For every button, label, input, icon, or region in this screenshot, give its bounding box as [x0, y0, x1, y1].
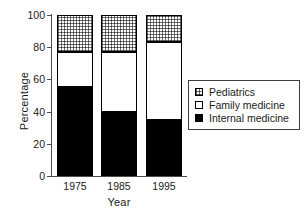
segment-1985-internal-medicine: [101, 112, 137, 176]
y-tick-label-0: 0: [20, 171, 45, 181]
x-tick-label-1995: 1995: [142, 180, 186, 192]
legend-label-family-medicine: Family medicine: [209, 100, 285, 111]
y-axis-tick-labels: 100 80 60 40 20 0: [20, 0, 45, 216]
bar-1995: [146, 15, 182, 176]
segment-1975-family-medicine: [57, 52, 93, 87]
segment-1975-internal-medicine: [57, 87, 93, 176]
segment-1995-internal-medicine: [146, 120, 182, 176]
legend: Pediatrics Family medicine Internal medi…: [188, 80, 300, 130]
segment-1985-family-medicine: [101, 52, 137, 112]
y-tick-label-20: 20: [20, 139, 45, 149]
segment-1985-pediatrics: [101, 15, 137, 52]
legend-label-internal-medicine: Internal medicine: [209, 113, 289, 124]
segment-1995-pediatrics: [146, 15, 182, 42]
legend-item-family-medicine: Family medicine: [195, 99, 294, 111]
legend-item-internal-medicine: Internal medicine: [195, 112, 294, 124]
x-tick-label-1975: 1975: [53, 180, 97, 192]
legend-label-pediatrics: Pediatrics: [209, 87, 255, 98]
segment-1995-family-medicine: [146, 42, 182, 119]
y-tick-label-60: 60: [20, 74, 45, 84]
x-axis-title: Year: [52, 196, 186, 208]
legend-item-pediatrics: Pediatrics: [195, 86, 294, 98]
stacked-bar-chart-figure: Percentage 100 80 60 40 20 0: [0, 0, 306, 216]
x-tick-label-1985: 1985: [97, 180, 141, 192]
legend-swatch-solid-icon: [195, 114, 203, 122]
segment-1975-pediatrics: [57, 15, 93, 52]
y-tick-mark-0: [47, 176, 52, 177]
y-tick-label-80: 80: [20, 42, 45, 52]
y-tick-label-40: 40: [20, 107, 45, 117]
bar-1985: [101, 15, 137, 176]
plot-area: [52, 15, 186, 176]
y-tick-label-100: 100: [20, 10, 45, 20]
bar-1975: [57, 15, 93, 176]
legend-swatch-dotted-icon: [195, 88, 203, 96]
legend-swatch-open-icon: [195, 101, 203, 109]
x-axis-line: [51, 176, 187, 177]
